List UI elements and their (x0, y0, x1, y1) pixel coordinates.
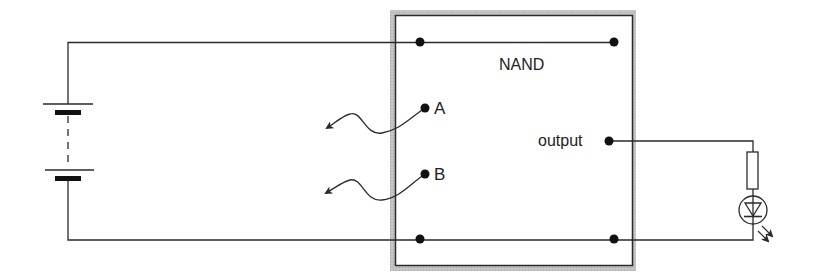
ground-node-left (416, 235, 425, 244)
ground-node-right (610, 235, 619, 244)
led-icon (739, 196, 772, 241)
input-a-terminal (421, 104, 430, 113)
input-b-label: B (434, 166, 445, 183)
battery-icon (43, 104, 94, 181)
output-label: output (538, 133, 582, 149)
input-a-label: A (434, 100, 445, 117)
output-terminal (605, 137, 614, 146)
input-b-terminal (421, 170, 430, 179)
circuit-diagram (0, 0, 822, 277)
power-node-right (610, 38, 619, 47)
nand-gate-box (390, 10, 636, 271)
nand-gate-label: NAND (499, 57, 544, 73)
power-node-left (416, 38, 425, 47)
resistor-icon (747, 152, 758, 196)
